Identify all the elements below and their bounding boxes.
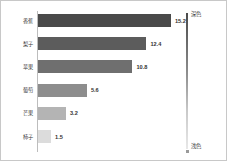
bar-row[interactable]: 苹果 10.8 [6, 55, 191, 78]
bar-row[interactable]: 柿子 1.5 [6, 125, 191, 148]
color-scale-legend: 深色 浅色 [186, 11, 220, 153]
bar-row[interactable]: 香蕉 15.2 [6, 9, 191, 32]
bar-category-label: 芒果 [6, 110, 35, 116]
bar-category-label: 苹果 [6, 64, 35, 70]
bar-rect[interactable] [38, 130, 51, 143]
bar-category-label: 葡萄 [6, 87, 35, 93]
bar-row[interactable]: 葡萄 5.6 [6, 79, 191, 102]
plot-area: 香蕉 15.2 梨子 12.4 苹果 10.8 葡萄 5.6 [6, 9, 191, 154]
bar-track: 3.2 [35, 102, 191, 125]
bar-track: 12.4 [35, 32, 191, 55]
color-gradient-end-marker [186, 150, 189, 153]
bar-value-label: 15.2 [175, 18, 186, 24]
bar-category-label: 梨子 [6, 41, 35, 47]
bar-value-label: 12.4 [150, 41, 161, 47]
bar-rect[interactable] [38, 84, 87, 97]
bar-track: 1.5 [35, 125, 191, 148]
bar-track: 10.8 [35, 55, 191, 78]
legend-label-dark: 深色 [191, 11, 201, 17]
bar-chart-figure: 香蕉 15.2 梨子 12.4 苹果 10.8 葡萄 5.6 [0, 0, 227, 161]
bar-track: 5.6 [35, 79, 191, 102]
bar-row[interactable]: 芒果 3.2 [6, 102, 191, 125]
bar-value-label: 5.6 [91, 87, 99, 93]
bar-value-label: 3.2 [70, 110, 78, 116]
bar-rect[interactable] [38, 37, 146, 50]
bar-track: 15.2 [35, 9, 191, 32]
color-gradient-bar [186, 13, 188, 149]
bar-value-label: 1.5 [55, 134, 63, 140]
bar-row[interactable]: 梨子 12.4 [6, 32, 191, 55]
bar-category-label: 香蕉 [6, 18, 35, 24]
bar-rect[interactable] [38, 60, 132, 73]
bar-category-label: 柿子 [6, 134, 35, 140]
bar-value-label: 10.8 [136, 64, 147, 70]
legend-label-light: 浅色 [191, 143, 201, 149]
bar-rect[interactable] [38, 14, 171, 27]
bar-rect[interactable] [38, 107, 66, 120]
